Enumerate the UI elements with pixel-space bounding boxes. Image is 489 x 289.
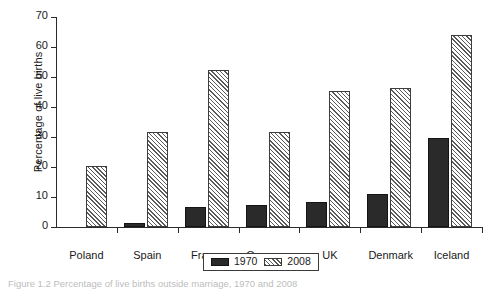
y-axis-tick-label: 30 bbox=[36, 129, 48, 141]
legend-swatch-1970 bbox=[211, 258, 229, 266]
y-axis-tick-label: 60 bbox=[36, 39, 48, 51]
bar-spain-1970 bbox=[124, 223, 145, 227]
y-axis-tick-label: 70 bbox=[36, 9, 48, 21]
bar-france-1970 bbox=[185, 207, 206, 227]
bar-spain-2008 bbox=[147, 132, 168, 227]
bar-group bbox=[299, 17, 360, 227]
bar-uk-1970 bbox=[306, 202, 327, 227]
figure-caption: Figure 1.2 Percentage of live births out… bbox=[8, 278, 482, 289]
x-axis-label-denmark: Denmark bbox=[360, 249, 421, 261]
x-axis-label-spain: Spain bbox=[117, 249, 178, 261]
legend-label-2008: 2008 bbox=[287, 255, 310, 268]
y-axis-tick-label: 20 bbox=[36, 159, 48, 171]
bar-germany-2008 bbox=[269, 132, 290, 227]
bar-group bbox=[421, 17, 482, 227]
bar-uk-2008 bbox=[329, 91, 350, 227]
x-axis-tick bbox=[482, 228, 483, 233]
y-axis-tick: 0 bbox=[51, 227, 56, 228]
x-axis-tick bbox=[421, 228, 422, 233]
bar-group bbox=[239, 17, 300, 227]
y-axis-tick-label: 40 bbox=[36, 99, 48, 111]
x-axis-label-poland: Poland bbox=[56, 249, 117, 261]
y-axis-tick-label: 50 bbox=[36, 69, 48, 81]
bar-poland-2008 bbox=[86, 166, 107, 227]
x-axis-tick bbox=[117, 228, 118, 233]
plot-area: 010203040506070 PolandSpainFranceGermany… bbox=[56, 17, 482, 227]
x-axis-tick bbox=[178, 228, 179, 233]
bar-group bbox=[117, 17, 178, 227]
x-axis-label-iceland: Iceland bbox=[421, 249, 482, 261]
x-axis-tick bbox=[239, 228, 240, 233]
x-axis-tick bbox=[360, 228, 361, 233]
y-axis-tick-label: 0 bbox=[42, 219, 48, 231]
chart-legend: 1970 2008 bbox=[203, 253, 319, 271]
bar-group bbox=[360, 17, 421, 227]
x-axis-line bbox=[56, 227, 483, 228]
bar-iceland-1970 bbox=[428, 138, 449, 227]
bar-france-2008 bbox=[208, 70, 229, 227]
legend-label-1970: 1970 bbox=[234, 255, 257, 268]
bar-denmark-1970 bbox=[367, 194, 388, 227]
legend-item-1970: 1970 bbox=[211, 255, 257, 268]
legend-swatch-2008 bbox=[264, 258, 282, 266]
bar-denmark-2008 bbox=[390, 88, 411, 227]
x-axis-tick bbox=[299, 228, 300, 233]
bar-group bbox=[56, 17, 117, 227]
bar-germany-1970 bbox=[246, 205, 267, 228]
y-axis-tick-label: 10 bbox=[36, 189, 48, 201]
bar-group bbox=[178, 17, 239, 227]
bar-iceland-2008 bbox=[451, 35, 472, 227]
legend-item-2008: 2008 bbox=[264, 255, 310, 268]
